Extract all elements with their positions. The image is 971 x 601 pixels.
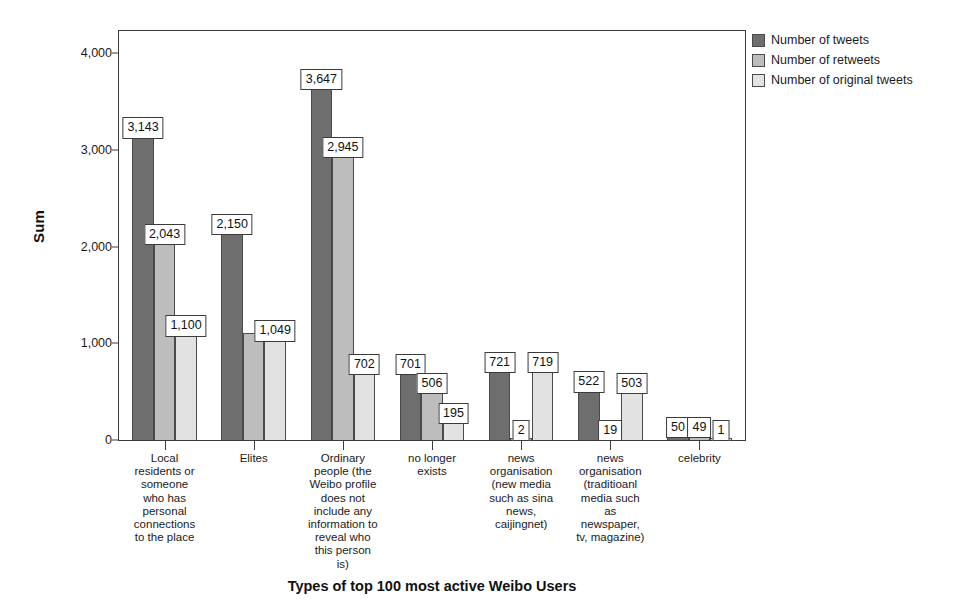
bar[interactable]: 2,043 <box>154 242 176 440</box>
x-tick-mark <box>610 441 611 450</box>
bar-group: 2,1501,049 <box>221 53 286 440</box>
legend: Number of tweetsNumber of retweetsNumber… <box>746 26 919 95</box>
x-tick-mark <box>521 441 522 450</box>
bar-value-label: 19 <box>598 420 622 442</box>
bar-group: 3,6472,945702 <box>311 53 376 440</box>
bar[interactable]: 3,143 <box>132 136 154 440</box>
bar-value-label: 3,647 <box>301 69 342 91</box>
x-category-label: newsorganisation(new mediasuch as sinane… <box>479 452 564 531</box>
bar-value-label: 702 <box>349 354 380 376</box>
legend-item[interactable]: Number of retweets <box>752 50 913 70</box>
bar-value-label: 503 <box>616 373 647 395</box>
y-tick-label: 2,000 <box>42 240 112 254</box>
x-tick-mark <box>699 441 700 450</box>
bar-value-label: 3,143 <box>122 117 163 139</box>
bar[interactable]: 195 <box>443 421 465 440</box>
bar-value-label: 49 <box>687 417 711 439</box>
bar-value-label: 50 <box>666 417 690 439</box>
x-category-label: celebrity <box>657 452 742 465</box>
bar-value-label: 1,100 <box>165 315 206 337</box>
bar-group-bars: 3,6472,945702 <box>311 53 376 440</box>
x-category-label: Elites <box>211 452 296 465</box>
bar-value-label: 2,150 <box>212 214 253 236</box>
x-tick-mark <box>165 441 166 450</box>
y-tick-label: 1,000 <box>42 336 112 350</box>
bar-group-bars: 701506195 <box>400 53 465 440</box>
legend-item-label: Number of tweets <box>771 33 869 47</box>
x-tick-mark <box>343 441 344 450</box>
bar-value-label: 195 <box>438 403 469 425</box>
bar[interactable]: 19 <box>600 438 622 440</box>
bar[interactable]: 702 <box>354 372 376 440</box>
bar[interactable] <box>243 333 265 440</box>
bar-value-label: 1,049 <box>255 320 296 342</box>
bar-group-bars: 50491 <box>667 53 732 440</box>
bar-group-bars: 2,1501,049 <box>221 53 286 440</box>
bar[interactable]: 503 <box>621 391 643 440</box>
bar[interactable]: 719 <box>532 370 554 440</box>
bar-group: 3,1432,0431,100 <box>132 53 197 440</box>
x-category-label: Localresidents orsomeonewho haspersonalc… <box>122 452 207 544</box>
bar-value-label: 506 <box>417 373 448 395</box>
legend-item-label: Number of original tweets <box>771 73 913 87</box>
x-axis-title: Types of top 100 most active Weibo Users <box>118 578 746 594</box>
x-tick-mark <box>254 441 255 450</box>
bar[interactable]: 2,945 <box>332 155 354 440</box>
y-tick-label: 3,000 <box>42 143 112 157</box>
bar-group: 50491 <box>667 53 732 440</box>
bar[interactable]: 2 <box>510 438 532 440</box>
bar[interactable]: 1,100 <box>175 334 197 440</box>
bar-group-bars: 7212719 <box>489 53 554 440</box>
bar-value-label: 721 <box>484 352 515 374</box>
bar-value-label: 2,945 <box>322 137 363 159</box>
x-category-label: newsorganisation(traditioanlmedia suchas… <box>568 452 653 544</box>
x-category-label: Ordinarypeople (theWeibo profiledoes not… <box>300 452 385 571</box>
legend-item[interactable]: Number of original tweets <box>752 70 913 90</box>
plot-area: 3,1432,0431,1002,1501,0493,6472,94570270… <box>120 53 744 440</box>
bar[interactable]: 2,150 <box>221 232 243 440</box>
bar[interactable]: 1 <box>710 438 732 440</box>
bar-chart: Sum 01,0002,0003,0004,000 3,1432,0431,10… <box>0 0 971 601</box>
bar[interactable]: 522 <box>578 390 600 441</box>
x-category-label: no longerexists <box>389 452 474 478</box>
bar-value-label: 1 <box>712 420 729 442</box>
legend-item-label: Number of retweets <box>771 53 880 67</box>
x-tick-mark <box>432 441 433 450</box>
legend-swatch-icon <box>752 74 765 87</box>
bar-value-label: 719 <box>527 352 558 374</box>
bar-group: 7212719 <box>489 53 554 440</box>
bar[interactable]: 721 <box>489 370 511 440</box>
legend-swatch-icon <box>752 54 765 67</box>
bar-group-bars: 52219503 <box>578 53 643 440</box>
y-axis-ticks: 01,0002,0003,0004,000 <box>40 0 112 601</box>
bar-value-label: 2,043 <box>144 224 185 246</box>
y-tick-label: 0 <box>42 433 112 447</box>
bar-group: 52219503 <box>578 53 643 440</box>
bar-group-bars: 3,1432,0431,100 <box>132 53 197 440</box>
bar[interactable]: 49 <box>689 435 711 440</box>
y-tick-label: 4,000 <box>42 46 112 60</box>
bar-group: 701506195 <box>400 53 465 440</box>
legend-swatch-icon <box>752 34 765 47</box>
x-axis: Localresidents orsomeonewho haspersonalc… <box>120 441 744 601</box>
legend-item[interactable]: Number of tweets <box>752 30 913 50</box>
bar-value-label: 522 <box>573 371 604 393</box>
bar[interactable]: 1,049 <box>264 339 286 440</box>
bar-value-label: 2 <box>513 420 530 442</box>
bar[interactable]: 50 <box>667 435 689 440</box>
